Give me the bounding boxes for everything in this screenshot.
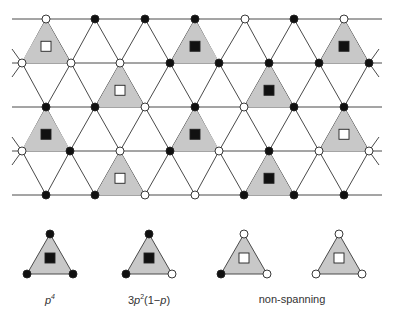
occupied-node-icon [365, 59, 373, 67]
empty-node-icon [18, 147, 26, 155]
lattice-diagonal-line [269, 19, 294, 63]
filled-square-icon [339, 41, 349, 51]
empty-node-icon [240, 103, 248, 111]
label-p4: p4 [10, 293, 90, 306]
occupied-node-icon [340, 191, 348, 199]
lattice-diagonal-line [294, 63, 319, 107]
filled-square-icon [264, 85, 274, 95]
legend-triangles [23, 230, 366, 278]
lattice-diagonal-line [22, 63, 46, 107]
paren-close: ) [166, 294, 170, 306]
occupied-node-icon [191, 15, 199, 23]
empty-node-icon [141, 191, 149, 199]
occupied-node-icon [166, 59, 174, 67]
empty-node-icon [315, 147, 323, 155]
label-p4-exponent: 4 [51, 293, 55, 300]
empty-square-icon [239, 253, 249, 263]
label-3p2-1-p: 3p2(1−p) [109, 293, 189, 306]
lattice-diagonal-line [344, 63, 369, 107]
lattice-diagonal-line [46, 63, 71, 107]
lattice-diagonal-line [70, 107, 95, 151]
empty-node-icon [67, 59, 75, 67]
occupied-node-icon [66, 147, 74, 155]
occupied-node-icon [315, 59, 323, 67]
occupied-node-icon [240, 191, 248, 199]
lattice-diagonal-line [344, 151, 369, 195]
empty-square-icon [115, 85, 125, 95]
lattice-diagonal-line [71, 63, 95, 107]
occupied-node-icon [166, 147, 174, 155]
occupied-node-icon [46, 230, 54, 238]
occupied-node-icon [290, 103, 298, 111]
lattice-diagonal-line [170, 151, 195, 195]
empty-node-icon [215, 147, 223, 155]
filled-square-icon [190, 129, 200, 139]
occupied-node-icon [91, 103, 99, 111]
empty-node-icon [18, 59, 26, 67]
empty-node-icon [240, 230, 248, 238]
empty-square-icon [339, 129, 349, 139]
empty-node-icon [116, 59, 124, 67]
lattice-diagonal-line [219, 151, 244, 195]
occupied-node-icon [290, 15, 298, 23]
empty-node-icon [241, 15, 249, 23]
occupied-node-icon [122, 270, 130, 278]
lattice-diagonal-line [269, 107, 294, 151]
lattice-diagonal-line [319, 151, 344, 195]
empty-node-icon [335, 230, 343, 238]
occupied-node-icon [217, 270, 225, 278]
empty-node-icon [116, 147, 124, 155]
lattice-diagonal-line [245, 19, 269, 63]
triangular-lattice-diagram [0, 0, 397, 322]
occupied-node-icon [340, 103, 348, 111]
label-non-spanning: non-spanning [252, 293, 332, 305]
filled-square-icon [144, 253, 154, 263]
lattice-diagonal-line [145, 63, 170, 107]
paren-open: (1− [144, 294, 160, 306]
occupied-node-icon [42, 191, 50, 199]
empty-node-icon [263, 270, 271, 278]
occupied-node-icon [23, 270, 31, 278]
empty-square-icon [41, 41, 51, 51]
empty-node-icon [365, 147, 373, 155]
occupied-node-icon [215, 59, 223, 67]
empty-node-icon [191, 191, 199, 199]
lattice-diagonal-line [70, 151, 95, 195]
lattice-diagonal-line [170, 63, 195, 107]
lattice-diagonal-line [95, 107, 120, 151]
empty-square-icon [115, 173, 125, 183]
occupied-node-icon [145, 230, 153, 238]
lattice-diagonal-line [145, 19, 170, 63]
filled-square-icon [41, 129, 51, 139]
occupied-node-icon [91, 15, 99, 23]
lattice-diagonal-line [195, 63, 219, 107]
occupied-node-icon [91, 191, 99, 199]
empty-square-icon [334, 253, 344, 263]
lattice-diagonal-line [294, 19, 319, 63]
lattice-diagonal-line [71, 19, 95, 63]
lattice-diagonal-line [145, 151, 170, 195]
lattice-diagonal-line [244, 107, 269, 151]
lattice-diagonal-line [319, 63, 344, 107]
lattice-diagonal-line [294, 151, 319, 195]
lattice-diagonal-line [120, 19, 145, 63]
empty-node-icon [141, 103, 149, 111]
lattice-diagonal-line [195, 151, 219, 195]
lattice-diagonal-line [46, 151, 70, 195]
filled-square-icon [190, 41, 200, 51]
empty-node-icon [312, 270, 320, 278]
lattice-diagonal-line [219, 107, 244, 151]
lattice-diagonal-line [294, 107, 319, 151]
lattice-diagonal-line [120, 107, 145, 151]
empty-node-icon [42, 15, 50, 23]
empty-node-icon [168, 270, 176, 278]
occupied-node-icon [69, 270, 77, 278]
occupied-node-icon [265, 59, 273, 67]
occupied-node-icon [191, 103, 199, 111]
lattice-diagonal-line [145, 107, 170, 151]
filled-square-icon [45, 253, 55, 263]
lattice-diagonal-line [219, 19, 245, 63]
lattice-diagonal-line [219, 63, 244, 107]
occupied-node-icon [265, 147, 273, 155]
empty-node-icon [358, 270, 366, 278]
